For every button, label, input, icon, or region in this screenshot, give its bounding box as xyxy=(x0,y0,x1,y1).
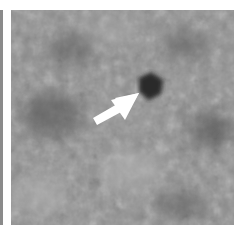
adjacent-image-edge xyxy=(0,10,3,225)
image-panel xyxy=(11,10,234,225)
tissue-texture xyxy=(11,10,234,225)
